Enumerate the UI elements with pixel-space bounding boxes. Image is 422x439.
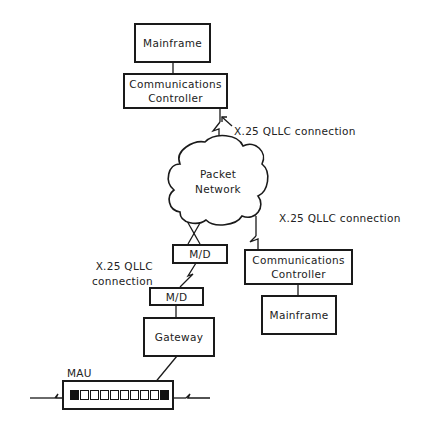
gateway-box: Gateway bbox=[143, 317, 215, 357]
top-mainframe-box: Mainframe bbox=[134, 23, 211, 63]
mau-port bbox=[100, 390, 109, 400]
top-controller-label-line2: Controller bbox=[148, 91, 203, 105]
left-link-label-line1: X.25 QLLC bbox=[92, 259, 153, 274]
top-link-label: X.25 QLLC connection bbox=[234, 124, 356, 138]
left-link-label-line2: connection bbox=[92, 274, 153, 289]
mau-port bbox=[110, 390, 119, 400]
top-modem-box: M/D bbox=[172, 244, 228, 264]
top-modem-label: M/D bbox=[189, 247, 211, 261]
mau-ports bbox=[70, 390, 169, 400]
mau-port bbox=[140, 390, 149, 400]
mau-port bbox=[80, 390, 89, 400]
left-link-label: X.25 QLLC connection bbox=[92, 259, 153, 289]
mau-port bbox=[90, 390, 99, 400]
mau-port bbox=[130, 390, 139, 400]
right-communications-controller-box: Communications Controller bbox=[244, 249, 353, 285]
bottom-modem-box: M/D bbox=[149, 287, 204, 306]
bottom-modem-label: M/D bbox=[166, 290, 188, 304]
right-link-label: X.25 QLLC connection bbox=[279, 211, 401, 225]
right-controller-label-line2: Controller bbox=[271, 267, 326, 281]
right-mainframe-label: Mainframe bbox=[270, 308, 329, 322]
mau-label: MAU bbox=[67, 366, 92, 380]
top-communications-controller-box: Communications Controller bbox=[123, 73, 228, 109]
gateway-label: Gateway bbox=[155, 330, 203, 344]
mau-port-ring-in bbox=[70, 390, 79, 400]
mau-port bbox=[150, 390, 159, 400]
mau-port-ring-out bbox=[160, 390, 169, 400]
right-mainframe-box: Mainframe bbox=[261, 295, 337, 335]
top-mainframe-label: Mainframe bbox=[143, 36, 202, 50]
packet-network-line2: Network bbox=[183, 182, 253, 197]
top-controller-label-line1: Communications bbox=[129, 77, 221, 91]
packet-network-label: Packet Network bbox=[183, 167, 253, 197]
mau-box bbox=[62, 380, 174, 410]
packet-network-line1: Packet bbox=[183, 167, 253, 182]
right-controller-label-line1: Communications bbox=[252, 253, 344, 267]
mau-port bbox=[120, 390, 129, 400]
